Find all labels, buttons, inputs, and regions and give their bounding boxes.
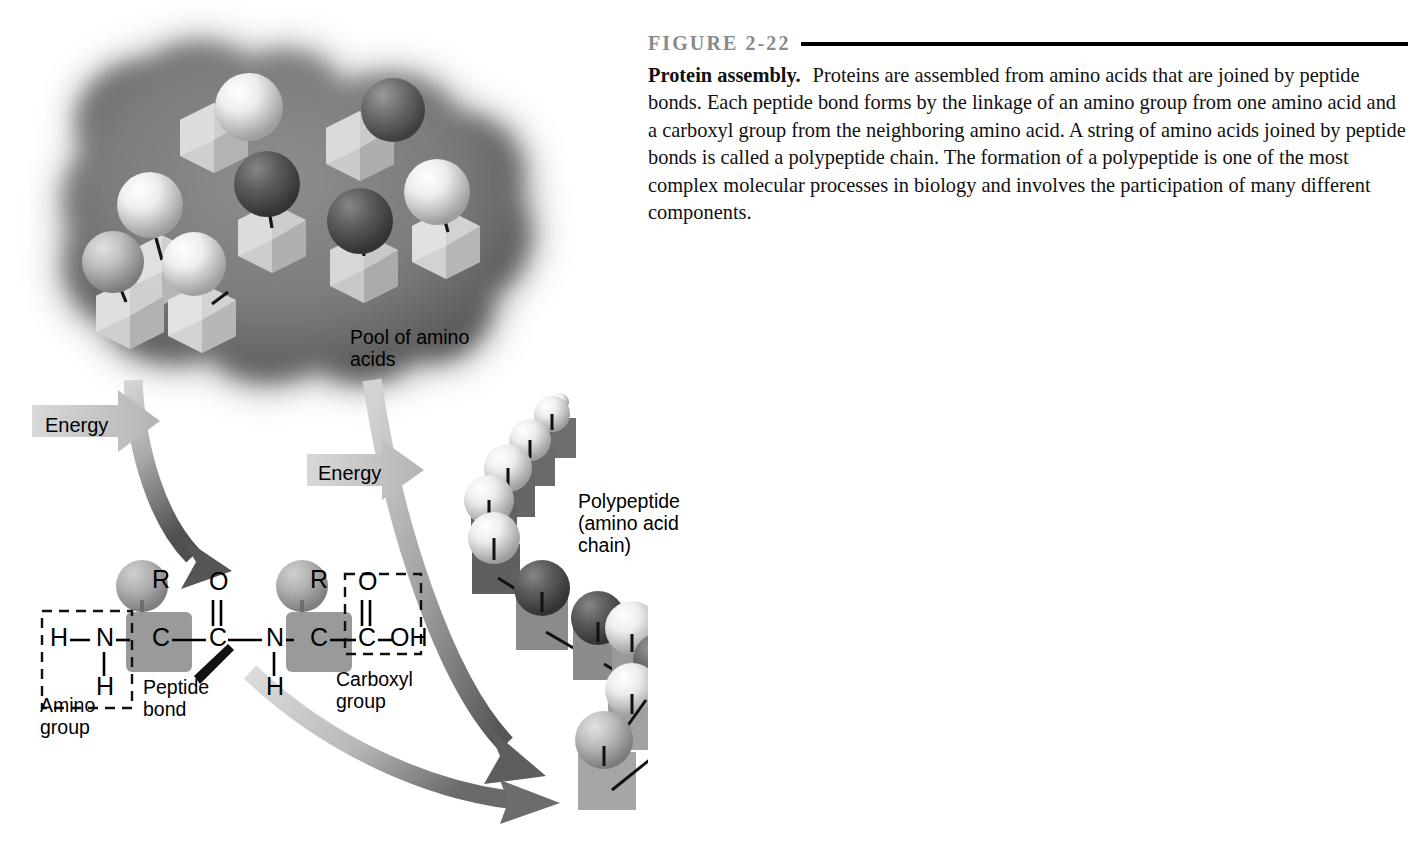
figure-page: Pool of amino acids Polypeptide (amino a… [0,0,1418,859]
atom-c-alpha-1: C [152,625,170,650]
figure-caption-text: Protein assembly.Proteins are assembled … [648,62,1408,226]
atom-oh-acid: OH [390,625,428,650]
atom-h-n-below: H [96,674,114,699]
figure-heading: FIGURE 2-22 [648,30,1408,56]
figure-title: Protein assembly. [648,64,801,86]
atom-r-1: R [152,567,170,592]
figure-caption-body: Proteins are assembled from amino acids … [648,64,1406,223]
energy-label-1: Energy [45,414,108,436]
figure-rule [801,42,1408,46]
atom-o-acid: O [358,569,377,594]
atom-c-carbonyl: C [209,625,227,650]
flow-arrow-to-peptide [133,380,232,589]
peptide-bond-label: Peptide bond [143,676,209,720]
atom-c-alpha-2: C [310,625,328,650]
polypeptide-label: Polypeptide (amino acid chain) [578,490,680,556]
atom-o-carbonyl: O [209,569,228,594]
atom-h-n-left: H [50,625,68,650]
atom-n-left: N [96,625,114,650]
atom-n-amide: N [266,625,284,650]
energy-label-2: Energy [318,462,381,484]
figure-number: FIGURE 2-22 [648,33,791,53]
atom-c-acid: C [358,625,376,650]
pool-label: Pool of amino acids [350,326,469,370]
atom-r-2: R [310,567,328,592]
protein-assembly-illustration: Pool of amino acids Polypeptide (amino a… [0,0,648,859]
figure-caption-block: FIGURE 2-22 Protein assembly.Proteins ar… [648,30,1408,226]
polypeptide-chain [464,393,648,810]
amino-group-label: Amino group [40,694,95,738]
atom-h-amide: H [266,674,284,699]
carboxyl-group-label: Carboxyl group [336,668,413,712]
